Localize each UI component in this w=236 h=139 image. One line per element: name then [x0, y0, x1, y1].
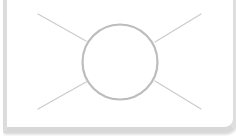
image-placeholder-icon — [0, 0, 236, 139]
diagonal-line-top-right — [155, 14, 201, 42]
diagonal-line-bottom-right — [155, 81, 201, 109]
circle-icon — [83, 25, 158, 100]
diagonal-line-bottom-left — [38, 82, 86, 109]
diagonal-line-top-left — [38, 14, 86, 41]
